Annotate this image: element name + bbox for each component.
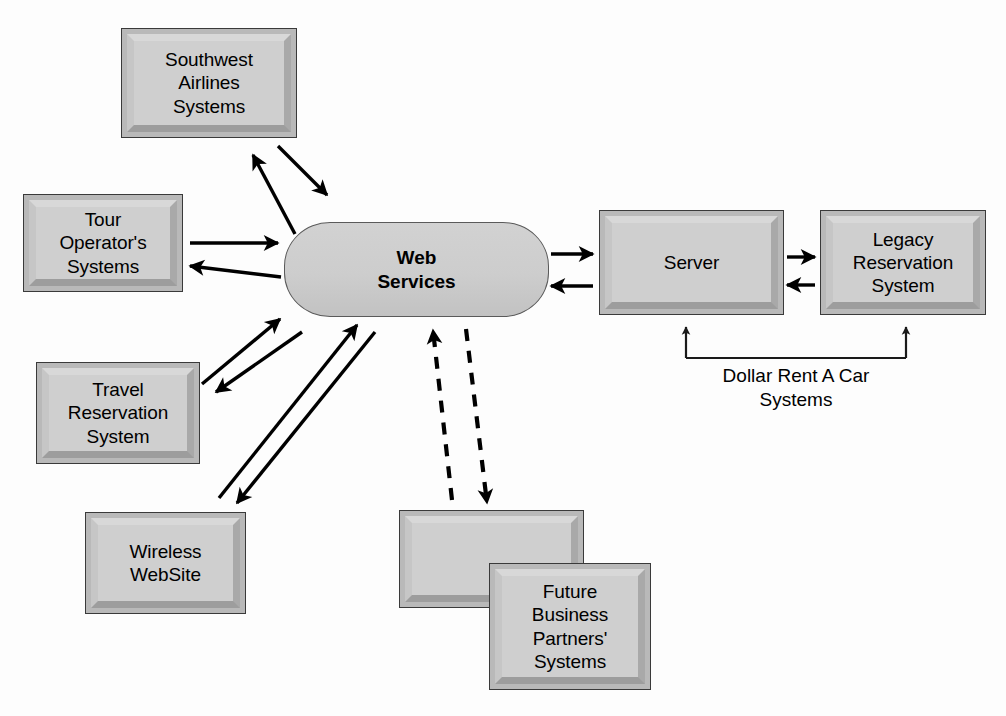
arrow-web-services-to-travel-reservation — [216, 332, 302, 392]
node-label-travel-reservation-system: Travel Reservation System — [68, 378, 168, 448]
arrow-web-services-to-southwest — [253, 155, 295, 234]
arrow-web-services-to-wireless-website — [237, 332, 375, 503]
node-southwest-airlines-systems[interactable]: Southwest Airlines Systems — [121, 28, 297, 138]
node-legacy-reservation-system[interactable]: Legacy Reservation System — [820, 210, 986, 315]
node-label-wireless-website: Wireless WebSite — [129, 540, 201, 586]
arrow-southwest-to-web-services — [278, 146, 327, 195]
node-travel-reservation-system[interactable]: Travel Reservation System — [36, 362, 200, 464]
node-face: Wireless WebSite — [91, 518, 240, 608]
node-web-services[interactable]: Web Services — [284, 222, 549, 317]
node-face: Future Business Partners' Systems — [495, 569, 645, 684]
node-wireless-website[interactable]: Wireless WebSite — [85, 512, 246, 614]
arrow-web-services-to-tour-operator — [190, 266, 281, 277]
node-face: Legacy Reservation System — [826, 216, 980, 309]
node-label-southwest-airlines-systems: Southwest Airlines Systems — [165, 48, 253, 118]
label-dollar-rent-a-car-systems: Dollar Rent A Car Systems — [671, 364, 921, 412]
node-label-tour-operators-systems: Tour Operator's Systems — [59, 208, 146, 278]
node-face: Server — [605, 216, 778, 309]
node-face: Southwest Airlines Systems — [127, 34, 291, 132]
node-label-legacy-reservation-system: Legacy Reservation System — [853, 228, 953, 298]
node-server[interactable]: Server — [599, 210, 784, 315]
node-label-future-business-partners-systems: Future Business Partners' Systems — [532, 580, 608, 673]
node-tour-operators-systems[interactable]: Tour Operator's Systems — [23, 194, 183, 292]
diagram-canvas: Southwest Airlines Systems Tour Operator… — [0, 0, 1006, 716]
node-face: Travel Reservation System — [42, 368, 194, 458]
arrow-travel-reservation-to-web-services — [202, 319, 280, 384]
node-label-server: Server — [664, 251, 719, 274]
node-face: Tour Operator's Systems — [29, 200, 177, 286]
arrow-wireless-website-to-web-services — [219, 325, 357, 498]
dashed-arrow-web-services-to-future-partners — [466, 329, 487, 503]
dashed-arrow-future-partners-to-web-services — [433, 330, 452, 500]
node-label-web-services: Web Services — [377, 246, 455, 294]
node-future-business-partners-systems[interactable]: Future Business Partners' Systems — [489, 563, 651, 690]
